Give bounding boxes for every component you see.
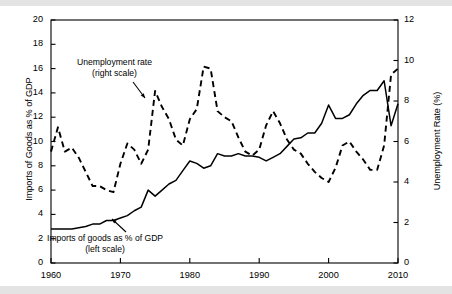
annotation-leader-lines bbox=[112, 82, 145, 232]
left-tick-2: 2 bbox=[21, 233, 43, 243]
right-tick-6: 6 bbox=[404, 136, 426, 146]
left-tick-16: 16 bbox=[21, 63, 43, 73]
x-tick-2000: 2000 bbox=[309, 270, 349, 280]
unemployment-leader-arrow bbox=[133, 82, 145, 98]
right-tick-2: 2 bbox=[404, 217, 426, 227]
left-tick-12: 12 bbox=[21, 111, 43, 121]
x-tick-1980: 1980 bbox=[170, 270, 210, 280]
left-tick-18: 18 bbox=[21, 38, 43, 48]
right-axis-title: Unemployment Rate (%) bbox=[432, 53, 442, 229]
x-tick-1960: 1960 bbox=[31, 270, 71, 280]
imports-leader-arrow bbox=[112, 219, 126, 232]
left-tick-20: 20 bbox=[21, 14, 43, 24]
left-tick-10: 10 bbox=[21, 136, 43, 146]
right-tick-4: 4 bbox=[404, 176, 426, 186]
left-tick-6: 6 bbox=[21, 184, 43, 194]
left-tick-8: 8 bbox=[21, 160, 43, 170]
unemployment-annotation-line2: (right scale) bbox=[77, 68, 152, 79]
right-tick-0: 0 bbox=[404, 257, 426, 267]
chart-figure: Imports of Goods as % of GDP Unemploymen… bbox=[0, 0, 452, 294]
x-tick-1990: 1990 bbox=[239, 270, 279, 280]
left-tick-0: 0 bbox=[21, 257, 43, 267]
unemployment-annotation: Unemployment rate (right scale) bbox=[77, 57, 152, 79]
unemployment-line bbox=[51, 67, 398, 193]
imports-annotation: Imports of goods as % of GDP (left scale… bbox=[47, 233, 163, 255]
unemployment-annotation-line1: Unemployment rate bbox=[77, 57, 152, 68]
right-tick-8: 8 bbox=[404, 95, 426, 105]
left-tick-14: 14 bbox=[21, 87, 43, 97]
imports-annotation-line1: Imports of goods as % of GDP bbox=[47, 233, 163, 244]
right-tick-12: 12 bbox=[404, 14, 426, 24]
imports-annotation-line2: (left scale) bbox=[47, 244, 163, 255]
right-tick-10: 10 bbox=[404, 55, 426, 65]
data-series bbox=[51, 67, 398, 229]
x-tick-2010: 2010 bbox=[378, 270, 418, 280]
left-tick-4: 4 bbox=[21, 208, 43, 218]
imports-line bbox=[51, 81, 398, 229]
x-tick-1970: 1970 bbox=[100, 270, 140, 280]
